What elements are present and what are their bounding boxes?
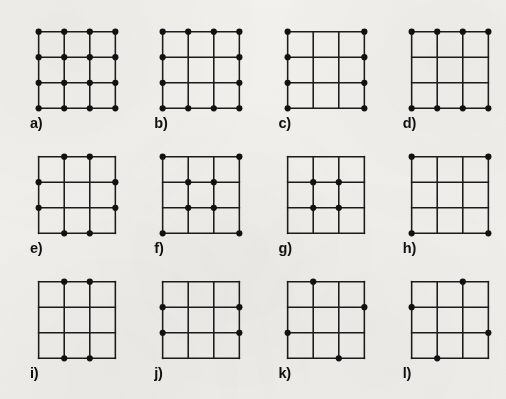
panel-label-j: j) (154, 366, 162, 381)
lattice-dot (434, 105, 440, 111)
lattice-panel-d: d) (395, 20, 506, 138)
lattice-grid-e (35, 153, 119, 237)
lattice-dot (485, 230, 491, 236)
lattice-dot (485, 29, 491, 35)
lattice-dot (61, 355, 67, 361)
panel-label-d: d) (403, 116, 416, 131)
lattice-dot (185, 105, 191, 111)
lattice-panel-c: c) (271, 20, 382, 138)
lattice-grid-a (35, 28, 119, 112)
lattice-dot (284, 54, 290, 60)
panel-label-i: i) (30, 366, 38, 381)
lattice-dot (87, 154, 93, 160)
lattice-dot (36, 80, 42, 86)
lattice-svg (159, 153, 243, 237)
lattice-grid-c (284, 28, 368, 112)
panel-label-k: k) (279, 366, 292, 381)
lattice-svg (284, 278, 368, 362)
lattice-dot (335, 179, 341, 185)
lattice-dot (61, 54, 67, 60)
lattice-dot (361, 29, 367, 35)
lattice-dot (61, 279, 67, 285)
panel-label-e: e) (30, 241, 43, 256)
lattice-dot (310, 279, 316, 285)
lattice-grid-f (159, 153, 243, 237)
lattice-dot (236, 154, 242, 160)
panel-label-a: a) (30, 116, 43, 131)
lattice-dot (361, 304, 367, 310)
lattice-dot (87, 29, 93, 35)
lattice-dot (211, 205, 217, 211)
lattice-dot (160, 29, 166, 35)
lattice-dot (335, 355, 341, 361)
panel-label-b: b) (154, 116, 167, 131)
lattice-dot (87, 105, 93, 111)
lattice-grid-g (284, 153, 368, 237)
lattice-svg (35, 28, 119, 112)
lattice-dot (434, 355, 440, 361)
lattice-dot (87, 80, 93, 86)
lattice-dot (361, 105, 367, 111)
lattice-dot (211, 105, 217, 111)
lattice-dot (160, 54, 166, 60)
lattice-panel-e: e) (22, 145, 133, 263)
lattice-dot (236, 80, 242, 86)
lattice-svg (408, 28, 492, 112)
lattice-dot (160, 154, 166, 160)
lattice-dot (160, 105, 166, 111)
lattice-dot (112, 29, 118, 35)
lattice-dot (61, 105, 67, 111)
lattice-svg (284, 153, 368, 237)
lattice-svg (35, 278, 119, 362)
lattice-dot (87, 54, 93, 60)
panel-row: i)j)k)l) (0, 270, 506, 388)
lattice-dot (310, 179, 316, 185)
lattice-dot (408, 154, 414, 160)
panel-label-c: c) (279, 116, 292, 131)
lattice-dot (61, 154, 67, 160)
lattice-panel-l: l) (395, 270, 506, 388)
lattice-dot (112, 54, 118, 60)
lattice-dot (211, 179, 217, 185)
lattice-dot (36, 205, 42, 211)
panel-row: e)f)g)h) (0, 145, 506, 263)
lattice-svg (159, 278, 243, 362)
panel-label-g: g) (279, 241, 292, 256)
lattice-dot (236, 105, 242, 111)
lattice-dot (459, 279, 465, 285)
lattice-dot (112, 105, 118, 111)
lattice-dot (408, 105, 414, 111)
lattice-grid-l (408, 278, 492, 362)
lattice-panel-k: k) (271, 270, 382, 388)
lattice-panel-b: b) (146, 20, 257, 138)
lattice-svg (284, 28, 368, 112)
lattice-dot (485, 154, 491, 160)
lattice-grid-i (35, 278, 119, 362)
lattice-svg (159, 28, 243, 112)
lattice-panel-i: i) (22, 270, 133, 388)
lattice-dot (361, 80, 367, 86)
lattice-dot (310, 205, 316, 211)
lattice-dot (87, 230, 93, 236)
lattice-dot (236, 304, 242, 310)
lattice-dot (485, 105, 491, 111)
lattice-dot (236, 54, 242, 60)
lattice-dot (459, 29, 465, 35)
lattice-dot (236, 29, 242, 35)
lattice-dot (112, 179, 118, 185)
lattice-grid-k (284, 278, 368, 362)
lattice-dot (112, 80, 118, 86)
lattice-dot (185, 179, 191, 185)
panel-label-f: f) (154, 241, 163, 256)
lattice-dot (284, 330, 290, 336)
lattice-dot (408, 230, 414, 236)
lattice-dot (160, 330, 166, 336)
lattice-dot (61, 230, 67, 236)
lattice-grid-b (159, 28, 243, 112)
lattice-svg (408, 153, 492, 237)
lattice-panel-h: h) (395, 145, 506, 263)
lattice-dot (36, 29, 42, 35)
panel-label-l: l) (403, 366, 411, 381)
lattice-dot (36, 179, 42, 185)
lattice-dot (61, 29, 67, 35)
